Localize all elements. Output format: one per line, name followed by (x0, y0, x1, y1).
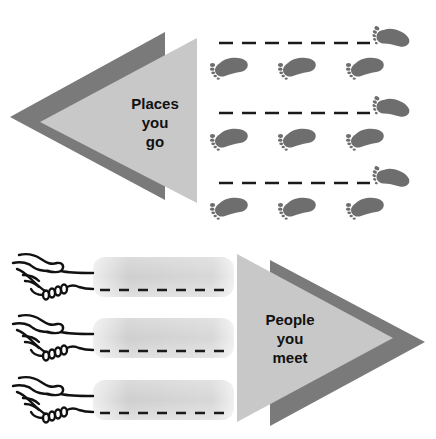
people-pills (93, 257, 234, 420)
footprints (210, 21, 412, 220)
people-label: People you meet (250, 310, 330, 367)
handshake-icon (13, 315, 93, 360)
footprint-icon (368, 91, 412, 127)
places-label-line-3: go (115, 132, 195, 151)
footprint-icon (368, 21, 412, 57)
people-label-line-3: meet (250, 348, 330, 367)
places-label-line-1: Places (115, 94, 195, 113)
people-label-line-2: you (250, 329, 330, 348)
handshakes (13, 254, 93, 422)
footprint-icon (368, 161, 412, 197)
footprint-icon (210, 58, 248, 80)
places-label-line-2: you (115, 113, 195, 132)
diagram-canvas (0, 0, 436, 439)
places-label: Places you go (115, 94, 195, 151)
footprint-icon (210, 198, 248, 220)
footprint-icon (278, 58, 316, 80)
people-label-line-1: People (250, 310, 330, 329)
footprint-icon (346, 58, 384, 80)
footprint-icon (346, 198, 384, 220)
footprint-icon (210, 129, 248, 151)
handshake-icon (13, 377, 93, 422)
footprint-icon (278, 198, 316, 220)
footprint-icon (346, 129, 384, 151)
footprint-icon (278, 129, 316, 151)
handshake-icon (13, 254, 93, 299)
